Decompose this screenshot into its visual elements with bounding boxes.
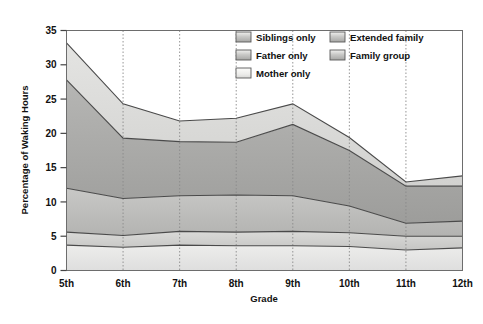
- y-axis-tick-label: 10: [45, 197, 57, 208]
- legend-item-siblings-only: Siblings only: [236, 32, 316, 43]
- legend-item-father-only: Father only: [236, 50, 308, 61]
- x-axis-tick-label: 10th: [339, 278, 360, 289]
- x-axis-tick-label: 11th: [396, 278, 416, 289]
- x-axis-tick-label: 5th: [59, 278, 74, 289]
- x-axis-tick-label: 8th: [229, 278, 244, 289]
- legend-item-mother-only: Mother only: [236, 68, 311, 79]
- legend-swatch: [330, 50, 345, 60]
- legend-label: Siblings only: [256, 32, 316, 43]
- x-axis-tick-label: 6th: [116, 278, 131, 289]
- legend-label: Family group: [350, 50, 410, 61]
- x-axis-tick-label: 12th: [452, 278, 473, 289]
- legend-swatch: [236, 50, 251, 60]
- legend-label: Extended family: [350, 32, 424, 43]
- y-axis-tick-label: 30: [45, 59, 57, 70]
- chart-canvas: 05101520253035 5th6th7th8th9th10th11th12…: [0, 0, 483, 324]
- legend-swatch: [236, 68, 251, 78]
- legend-label: Father only: [256, 50, 308, 61]
- legend-swatch: [236, 32, 251, 42]
- legend-item-extended-family: Extended family: [330, 32, 424, 43]
- y-axis-tick-label: 20: [45, 128, 57, 139]
- legend-swatch: [330, 32, 345, 42]
- legend-item-family-group: Family group: [330, 50, 410, 61]
- x-axis-title: Grade: [250, 293, 277, 304]
- y-axis-tick-label: 25: [45, 94, 57, 105]
- y-axis-tick-label: 0: [51, 265, 57, 276]
- legend-label: Mother only: [256, 68, 311, 79]
- y-axis-tick-label: 35: [45, 25, 57, 36]
- y-axis-title: Percentage of Waking Hours: [19, 86, 30, 215]
- x-axis-tick-label: 7th: [172, 278, 187, 289]
- y-axis-tick-label: 5: [51, 231, 57, 242]
- y-axis-tick-label: 15: [45, 162, 57, 173]
- stacked-area-chart: 05101520253035 5th6th7th8th9th10th11th12…: [0, 0, 483, 324]
- x-axis-tick-label: 9th: [285, 278, 300, 289]
